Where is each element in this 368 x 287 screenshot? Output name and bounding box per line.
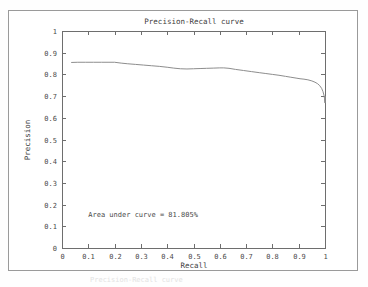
precision-recall-curve — [71, 62, 325, 103]
y-axis-title: Precision — [23, 120, 32, 161]
y-tick-label: 0.7 — [44, 93, 57, 101]
data-curve-group — [71, 62, 325, 103]
x-axis-title: Recall — [180, 261, 207, 270]
y-tick-label: 0.5 — [44, 137, 57, 145]
y-tick-label: 1 — [53, 28, 57, 36]
x-tick-label: 0.8 — [266, 253, 279, 261]
figure-page: 00.10.20.30.40.50.60.70.80.9100.10.20.30… — [0, 0, 368, 287]
y-tick-label: 0.1 — [44, 223, 57, 231]
y-tick-label: 0 — [53, 245, 57, 253]
x-tick-label: 0.5 — [188, 253, 201, 261]
x-tick-label: 0.1 — [82, 253, 95, 261]
precision-recall-chart: 00.10.20.30.40.50.60.70.80.9100.10.20.30… — [0, 0, 368, 287]
y-tick-label: 0.6 — [44, 115, 57, 123]
x-tick-label: 0.2 — [109, 253, 122, 261]
figure-caption-ghost: Precision-Recall curve — [90, 276, 290, 284]
y-tick-label: 0.8 — [44, 71, 57, 79]
tick-labels-group: 00.10.20.30.40.50.60.70.80.9100.10.20.30… — [44, 28, 327, 261]
auc-annotation: Area under curve = 81.805% — [88, 211, 198, 219]
x-tick-label: 0.6 — [214, 253, 227, 261]
x-tick-label: 0 — [60, 253, 64, 261]
x-tick-label: 1 — [323, 253, 327, 261]
y-tick-label: 0.4 — [44, 158, 57, 166]
x-tick-label: 0.4 — [161, 253, 174, 261]
y-tick-label: 0.2 — [44, 202, 57, 210]
y-tick-label: 0.9 — [44, 50, 57, 58]
x-tick-label: 0.3 — [135, 253, 148, 261]
chart-title: Precision-Recall curve — [144, 17, 244, 26]
y-tick-label: 0.3 — [44, 180, 57, 188]
x-tick-label: 0.9 — [293, 253, 306, 261]
x-tick-label: 0.7 — [240, 253, 253, 261]
